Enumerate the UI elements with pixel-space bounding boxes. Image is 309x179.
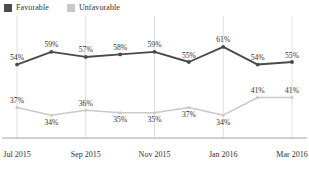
data-point-label: 59% <box>148 40 163 49</box>
data-point-label: 36% <box>79 99 94 108</box>
data-point-marker[interactable] <box>15 63 19 67</box>
data-point-label: 37% <box>182 110 197 119</box>
data-point-marker[interactable] <box>16 106 19 109</box>
data-point-marker[interactable] <box>187 106 190 109</box>
x-axis-labels: Jul 2015Sep 2015Nov 2015Jan 2016Mar 2016 <box>0 150 309 166</box>
data-point-marker[interactable] <box>221 45 225 49</box>
data-point-label: 54% <box>10 53 25 62</box>
data-point-label: 55% <box>285 51 300 60</box>
data-point-label: 37% <box>10 96 25 105</box>
x-tick-label-2: Nov 2015 <box>139 150 171 160</box>
data-point-marker[interactable] <box>119 111 122 114</box>
data-point-marker[interactable] <box>49 50 53 54</box>
data-point-marker[interactable] <box>291 96 294 99</box>
x-tick-label-4: Mar 2016 <box>276 150 307 160</box>
data-point-label: 34% <box>216 118 231 127</box>
data-point-marker[interactable] <box>153 111 156 114</box>
plot-area: 37%34%36%35%35%37%34%41%41%54%59%57%58%5… <box>0 16 309 151</box>
data-point-label: 35% <box>113 115 128 124</box>
data-point-marker[interactable] <box>222 114 225 117</box>
data-point-label: 41% <box>251 86 266 95</box>
legend-label-unfavorable: Unfavorable <box>79 3 120 12</box>
data-point-label: 34% <box>44 118 59 127</box>
data-point-marker[interactable] <box>256 96 259 99</box>
data-point-label: 54% <box>251 53 266 62</box>
x-tick-label-0: Jul 2015 <box>3 150 30 160</box>
x-tick-label-3: Jan 2016 <box>209 150 238 160</box>
data-point-marker[interactable] <box>50 114 53 117</box>
data-point-label: 61% <box>216 35 231 44</box>
square-swatch-icon <box>4 4 12 12</box>
chart-legend: Favorable Unfavorable <box>4 1 120 14</box>
data-point-marker[interactable] <box>84 109 87 112</box>
data-point-label: 58% <box>113 43 128 52</box>
data-point-marker[interactable] <box>256 63 260 67</box>
data-point-marker[interactable] <box>153 50 157 54</box>
data-point-label: 59% <box>44 40 59 49</box>
data-point-marker[interactable] <box>187 60 191 64</box>
data-point-label: 55% <box>182 51 197 60</box>
data-point-label: 57% <box>79 45 94 54</box>
data-point-marker[interactable] <box>84 55 88 59</box>
legend-label-favorable: Favorable <box>16 3 49 12</box>
data-point-label: 35% <box>148 115 163 124</box>
favorability-line-chart: Favorable Unfavorable 37%34%36%35%35%37%… <box>0 0 309 179</box>
legend-item-favorable[interactable]: Favorable <box>4 3 49 12</box>
x-tick-label-1: Sep 2015 <box>71 150 101 160</box>
data-point-marker[interactable] <box>118 53 122 57</box>
square-swatch-icon <box>67 4 75 12</box>
data-point-marker[interactable] <box>290 60 294 64</box>
plot-svg: 37%34%36%35%35%37%34%41%41%54%59%57%58%5… <box>0 16 309 151</box>
legend-item-unfavorable[interactable]: Unfavorable <box>67 3 120 12</box>
data-point-label: 41% <box>285 86 300 95</box>
